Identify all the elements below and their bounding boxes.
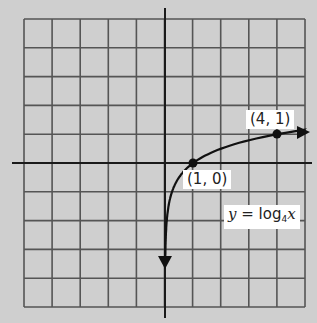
point-1-0 [189,159,198,168]
log-graph [0,0,317,323]
point-label-4-1: (4, 1) [246,110,294,129]
eq-log: = log [236,205,281,223]
eq-x: x [287,205,295,223]
curve-arrow-right-icon [297,126,310,139]
point-label-1-0: (1, 0) [183,170,231,189]
curve-arrow-down-icon [158,256,172,269]
log-curve [165,130,303,258]
point-4-1 [273,130,282,139]
equation-label: y = log4x [224,205,300,229]
